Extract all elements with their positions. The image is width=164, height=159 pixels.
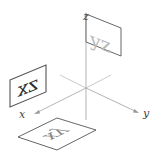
x-axis-arrowhead-icon xyxy=(34,110,40,114)
y-axis xyxy=(86,88,137,112)
plane-xy: xy xyxy=(18,118,96,150)
plane-zx: zx xyxy=(10,65,46,107)
z-axis-label: z xyxy=(82,10,89,23)
y-axis-arrowhead-icon xyxy=(133,109,139,113)
x-axis-label: x xyxy=(19,108,26,121)
x-axis-negative xyxy=(60,75,86,88)
coordinate-diagram: yz z zx xy x y xyxy=(0,0,164,159)
plane-yz: yz xyxy=(86,14,121,58)
y-axis-label: y xyxy=(142,107,150,120)
y-axis-negative xyxy=(86,75,111,88)
